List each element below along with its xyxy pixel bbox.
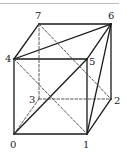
vertex-label-1: 1 [83,139,89,150]
vertex-label-5: 5 [89,56,95,67]
vertex-label-3: 3 [29,94,35,105]
vertex-labels: 01234567 [5,10,120,150]
vertex-label-0: 0 [10,139,16,150]
vertex-label-7: 7 [35,10,41,21]
dashed-edges [14,24,111,134]
hidden-edge-7-2 [39,24,111,99]
vertex-label-6: 6 [108,10,114,21]
vertex-label-2: 2 [114,95,120,106]
edge-4-7 [14,24,39,59]
cube-diagram: 01234567 [0,0,127,158]
vertex-label-4: 4 [5,53,11,64]
solid-edges [14,24,111,134]
edge-4-6 [14,24,111,59]
